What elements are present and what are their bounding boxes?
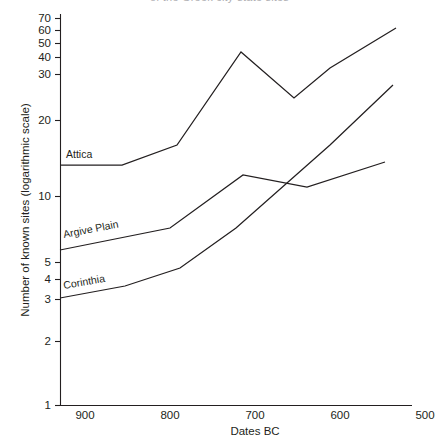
y-tick-label-20: 20 <box>38 114 51 126</box>
series-line-argive-plain <box>60 162 385 250</box>
y-axis-ticks <box>55 19 61 406</box>
y-tick-label-70: 70 <box>38 12 51 24</box>
y-tick-label-60: 60 <box>38 24 51 36</box>
y-tick-label-4: 4 <box>45 273 52 285</box>
y-tick-label-10: 10 <box>38 190 51 202</box>
y-tick-label-3: 3 <box>45 293 51 305</box>
line-chart-svg: 70 60 50 40 30 20 10 5 4 3 2 1 900 800 7… <box>0 0 444 448</box>
x-tick-label-800: 800 <box>160 409 179 421</box>
x-tick-label-900: 900 <box>75 409 94 421</box>
y-tick-label-5: 5 <box>45 256 51 268</box>
series-label-attica: Attica <box>66 148 92 160</box>
chart-figure: of the Greek city-state sites 70 60 50 4… <box>0 0 444 448</box>
y-axis-title: Number of known sites (logarithmic scale… <box>19 103 31 317</box>
x-axis-title: Dates BC <box>230 425 279 437</box>
series-label-corinthia-group: Corinthia <box>62 272 106 291</box>
y-tick-label-1: 1 <box>45 399 51 411</box>
series-label-argive-plain: Argive Plain <box>62 217 119 240</box>
x-tick-label-700: 700 <box>245 409 264 421</box>
y-tick-label-2: 2 <box>45 335 51 347</box>
series-label-corinthia: Corinthia <box>62 272 106 291</box>
series-label-attica-group: Attica <box>64 146 110 161</box>
series-line-attica <box>60 28 396 165</box>
y-tick-label-50: 50 <box>38 37 51 49</box>
y-tick-label-40: 40 <box>38 51 51 63</box>
series-label-argive-group: Argive Plain <box>62 217 119 240</box>
y-tick-label-30: 30 <box>38 68 51 80</box>
x-tick-label-600: 600 <box>330 409 349 421</box>
series-line-corinthia <box>60 85 393 298</box>
x-tick-label-500: 500 <box>415 409 434 421</box>
